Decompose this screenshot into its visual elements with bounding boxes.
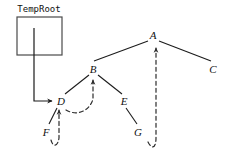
temproot-box-group bbox=[17, 17, 62, 55]
node-label-e: E bbox=[121, 96, 128, 107]
tree-edges bbox=[49, 41, 211, 124]
node-label-a: A bbox=[150, 30, 157, 41]
temproot-box bbox=[17, 17, 62, 55]
edge-a-to-b bbox=[94, 41, 148, 61]
pointer-edges bbox=[34, 28, 52, 101]
edge-e-to-g bbox=[126, 108, 137, 124]
node-label-f: F bbox=[43, 127, 50, 138]
dashed-edge-d-to-b bbox=[66, 80, 93, 113]
diagram-canvas bbox=[0, 0, 230, 157]
edge-temproot-to-d bbox=[34, 28, 52, 101]
tree-diagram: TempRoot A B C D E F G bbox=[0, 0, 230, 157]
dashed-edge-g-to-a bbox=[148, 48, 156, 147]
edge-b-to-e bbox=[98, 75, 122, 94]
edge-b-to-d bbox=[65, 75, 89, 94]
dashed-edge-f-to-d bbox=[51, 110, 59, 145]
node-label-d: D bbox=[57, 96, 65, 107]
edge-a-to-c bbox=[159, 41, 211, 61]
node-label-g: G bbox=[134, 127, 142, 138]
node-label-b: B bbox=[90, 64, 97, 75]
temproot-label: TempRoot bbox=[17, 4, 60, 14]
edge-d-to-f bbox=[49, 108, 57, 124]
node-label-c: C bbox=[209, 64, 216, 75]
